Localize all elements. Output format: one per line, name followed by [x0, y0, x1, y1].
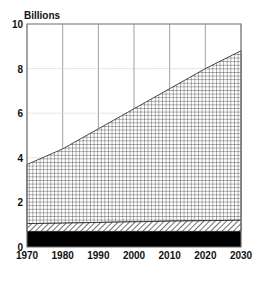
y-tick-label: 6 [17, 108, 23, 119]
y-tick-label: 8 [17, 64, 23, 75]
y-tick-label: 2 [17, 197, 23, 208]
x-tick-label: 2000 [123, 250, 146, 261]
stacked-area-chart: 0246810 1970198019902000201020202030 Bil… [0, 0, 262, 281]
y-tick-label: 10 [12, 19, 24, 30]
x-tick-label: 1980 [52, 250, 75, 261]
y-tick-label: 4 [17, 153, 23, 164]
y-axis-label: Billions [24, 10, 61, 21]
x-tick-label: 2020 [194, 250, 217, 261]
solid-black-area [27, 231, 241, 247]
x-tick-label: 1970 [16, 250, 39, 261]
y-axis-ticks: 0246810 [12, 19, 24, 253]
x-tick-label: 2010 [159, 250, 182, 261]
x-tick-label: 1990 [87, 250, 110, 261]
x-axis-ticks: 1970198019902000201020202030 [16, 250, 253, 261]
x-tick-label: 2030 [230, 250, 253, 261]
